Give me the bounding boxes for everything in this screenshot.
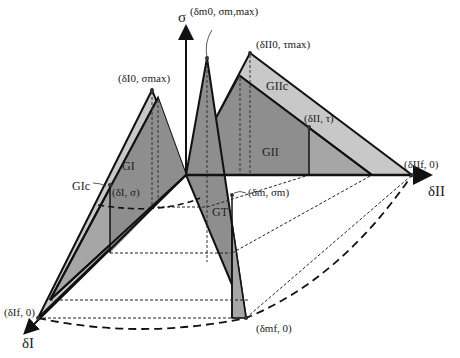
cohesive-zone-diagram: σ δII δI (δm0, σm,max) (δII0, τmax) (δI0…: [0, 0, 460, 358]
mixed-current-label: (δm, σm): [248, 186, 289, 199]
mode-I-current-label: (δI, σ): [112, 186, 140, 199]
delta-I-axis-label: δI: [22, 335, 34, 351]
sigma-axis-label: σ: [178, 9, 186, 25]
mixed-current-point: [230, 193, 234, 197]
mode-II-current-point: [307, 125, 311, 129]
mode-II-peak-label: (δII0, τmax): [256, 38, 311, 51]
mode-II-final-label: (δIIf, 0): [404, 158, 439, 171]
mode-II-peak-point: [248, 51, 252, 55]
GII-label: GII: [262, 145, 279, 159]
GIIc-label: GIIc: [266, 79, 288, 93]
mode-I-dissipated-area: [110, 98, 186, 253]
leader-line: [234, 192, 246, 194]
mode-I-final-point: [36, 316, 40, 320]
GI-label: GI: [122, 159, 135, 173]
GIc-label: GIc: [72, 179, 90, 193]
mixed-peak-label: (δm0, σm,max): [190, 5, 259, 18]
leader-line: [206, 30, 212, 58]
mixed-mode-lower: [232, 223, 246, 318]
mixed-final-label: (δmf, 0): [256, 322, 292, 335]
delta-II-axis-label: δII: [428, 183, 445, 199]
mode-I-peak-label: (δI0, σmax): [118, 72, 170, 85]
mode-II-final-point: [410, 173, 414, 177]
GT-label: GT: [212, 205, 229, 219]
mode-I-final-label: (δIf, 0): [4, 306, 35, 319]
mode-I-peak-point: [150, 88, 154, 92]
mixed-final-point: [244, 316, 248, 320]
mode-II-current-label: (δII, τ): [304, 112, 334, 125]
